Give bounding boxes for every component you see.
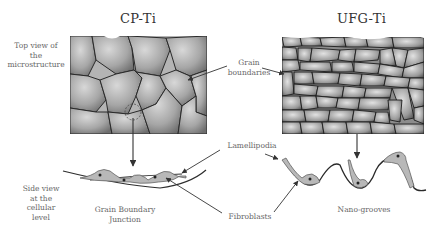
arrow-lamellipodia-right: [265, 154, 278, 159]
arrow-fibroblasts-left: [166, 178, 222, 213]
ufg-ti-fibroblasts: [282, 152, 414, 188]
ufg-ti-micrograph: [282, 34, 424, 134]
diagram-graphics: [0, 0, 444, 235]
arrow-grain-boundaries-right: [262, 68, 284, 74]
cp-ti-micrograph: [70, 36, 207, 134]
arrow-fibroblasts-right: [274, 181, 298, 212]
cp-ti-fibroblasts: [80, 170, 186, 184]
arrow-lamellipodia-left: [182, 150, 220, 173]
